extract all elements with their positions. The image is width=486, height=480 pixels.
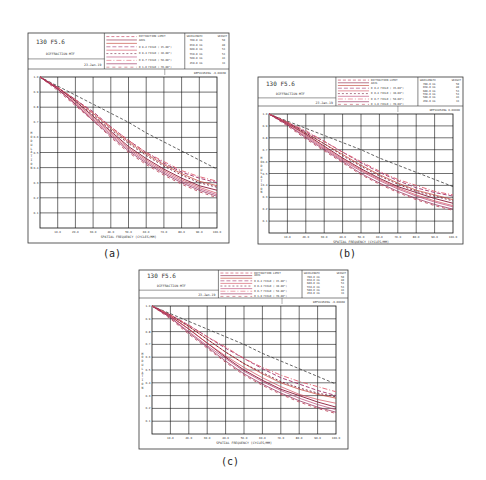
mtf-panel-a: 130 F5.6DIFFRACTION MTF23-Jan-19DIFFRACT… xyxy=(28,33,229,243)
x-tick-label: 60.0 xyxy=(376,235,383,239)
x-tick-label: 20.0 xyxy=(185,436,192,440)
y-tick-label: 0.4 xyxy=(262,183,267,187)
y-tick-label: 0.7 xyxy=(33,120,38,124)
x-tick-label: 60.0 xyxy=(259,436,266,440)
x-tick-label: 80.0 xyxy=(296,436,303,440)
x-tick-label: 70.0 xyxy=(394,235,401,239)
panel-caption: (b) xyxy=(338,248,356,259)
panel-caption: (a) xyxy=(103,248,121,259)
weight-header: WEIGHT xyxy=(218,35,228,38)
weight-value: 80 xyxy=(222,44,226,47)
panel-title: 130 F5.6 xyxy=(266,80,295,87)
x-tick-label: 30.0 xyxy=(90,230,97,234)
panel-date: 23-Jan-19 xyxy=(84,63,101,67)
y-tick-label: 0.2 xyxy=(262,207,267,211)
y-tick-label: 0.8 xyxy=(262,136,267,140)
x-tick-label: 30.0 xyxy=(204,436,211,440)
legend-entry: AXIS xyxy=(371,82,378,85)
y-tick-label: 0.3 xyxy=(262,195,267,199)
legend-entry: R 0.4 FIELD ( 30.00°) xyxy=(371,92,404,95)
y-tick-label: 0.5 xyxy=(33,151,38,155)
panel-date: 23-Jan-19 xyxy=(316,101,333,105)
y-tick-label: 0.6 xyxy=(262,160,267,164)
x-axis-label: SPATIAL FREQUENCY (CYCLES/MM) xyxy=(101,235,157,239)
y-tick-label: 0.8 xyxy=(33,105,38,109)
x-tick-label: 90.0 xyxy=(314,436,321,440)
mtf-panel-b: 130 F5.6DIFFRACTION MTF23-Jan-19DIFFRACT… xyxy=(258,77,463,244)
x-tick-label: 80.0 xyxy=(178,230,185,234)
weight-value: 53 xyxy=(222,53,226,56)
y-tick-label: 1.0 xyxy=(145,304,150,308)
wavelength-value: 450.0 nm xyxy=(307,292,320,295)
y-tick-label: 0.6 xyxy=(33,135,38,139)
figure: 130 F5.6DIFFRACTION MTF23-Jan-19DIFFRACT… xyxy=(0,0,486,480)
y-tick-label: 0.7 xyxy=(262,148,267,152)
y-tick-label: 1.0 xyxy=(262,112,267,116)
x-tick-label: 90.0 xyxy=(196,230,203,234)
x-tick-label: 50.0 xyxy=(241,436,248,440)
weight-header: WEIGHT xyxy=(337,272,347,275)
x-tick-label: 60.0 xyxy=(143,230,150,234)
weight-value: 33 xyxy=(222,62,226,65)
x-axis-label: SPATIAL FREQUENCY (CYCLES/MM) xyxy=(216,441,272,445)
weight-value: 53 xyxy=(222,48,226,51)
x-tick-label: 70.0 xyxy=(277,436,284,440)
weight-value: 33 xyxy=(341,292,345,295)
y-tick-label: 0.8 xyxy=(145,330,150,334)
legend-entry: R 0.7 FIELD ( 50.00°) xyxy=(139,59,172,62)
legend-entry: R 0.2 FIELD ( 15.00°) xyxy=(254,280,287,283)
panel-subtitle: DIFFRACTION MTF xyxy=(276,92,305,96)
y-tick-label: 0.9 xyxy=(33,90,38,94)
defocusing-label: DEFOCUSING -0.00030 xyxy=(194,71,226,75)
y-tick-label: 1.0 xyxy=(33,75,38,79)
legend-entry: R 1.0 FIELD ( 70.00°) xyxy=(139,66,172,69)
mtf-panel-c: 130 F5.6DIFFRACTION MTF23-Jan-19DIFFRACT… xyxy=(139,270,348,449)
wavelength-value: 600.0 nm xyxy=(190,48,203,51)
y-tick-label: 0.1 xyxy=(262,219,267,223)
panel-subtitle: DIFFRACTION MTF xyxy=(46,52,75,56)
wavelength-value: 700.0 nm xyxy=(190,39,203,42)
wavelength-value: 550.0 nm xyxy=(190,53,203,56)
panel-caption: (c) xyxy=(221,456,239,467)
x-tick-label: 80.0 xyxy=(413,235,420,239)
x-tick-label: 20.0 xyxy=(302,235,309,239)
y-tick-label: 0.3 xyxy=(33,181,38,185)
y-axis-label-char: N xyxy=(31,166,33,170)
legend-entry: R 1.0 FIELD ( 70.00°) xyxy=(371,103,404,106)
legend-entry: AXIS xyxy=(254,274,261,277)
weight-value: 50 xyxy=(222,39,226,42)
x-tick-label: 40.0 xyxy=(107,230,114,234)
weight-header: WEIGHT xyxy=(452,79,462,82)
legend-entry: R 0.2 FIELD ( 15.00°) xyxy=(139,46,172,49)
panel-date: 23-Jan-19 xyxy=(198,293,215,297)
y-tick-label: 0.4 xyxy=(145,381,150,385)
y-tick-label: 0.5 xyxy=(145,368,150,372)
legend-entry: R 0.7 FIELD ( 50.00°) xyxy=(254,290,287,293)
x-tick-label: 90.0 xyxy=(431,235,438,239)
y-tick-label: 0.1 xyxy=(33,211,38,215)
x-tick-label: 70.0 xyxy=(161,230,168,234)
x-tick-label: 40.0 xyxy=(222,436,229,440)
panel-title: 130 F5.6 xyxy=(147,272,176,279)
x-tick-label: 100.0 xyxy=(332,436,341,440)
legend-entry: AXIS xyxy=(139,39,146,42)
legend-entry: R 0.2 FIELD ( 15.00°) xyxy=(371,87,404,90)
y-tick-label: 0.2 xyxy=(33,196,38,200)
x-tick-label: 100.0 xyxy=(213,230,222,234)
y-tick-label: 0.9 xyxy=(145,317,150,321)
wavelength-value: 450.0 nm xyxy=(423,100,436,103)
panel-subtitle: DIFFRACTION MTF xyxy=(157,284,186,288)
x-tick-label: 10.0 xyxy=(284,235,291,239)
wavelength-header: WAVELENGTH xyxy=(304,272,320,275)
x-tick-label: 50.0 xyxy=(358,235,365,239)
y-tick-label: 0.5 xyxy=(262,172,267,176)
x-tick-label: 20.0 xyxy=(72,230,79,234)
legend-entry: R 1.0 FIELD ( 70.00°) xyxy=(254,295,287,298)
legend-entry: R 0.4 FIELD ( 30.00°) xyxy=(254,285,287,288)
defocusing-label: DEFOCUSING -0.00060 xyxy=(313,300,345,304)
y-tick-label: 0.9 xyxy=(262,124,267,128)
x-tick-label: 10.0 xyxy=(167,436,174,440)
x-tick-label: 10.0 xyxy=(54,230,61,234)
weight-value: 43 xyxy=(222,57,226,60)
x-tick-label: 40.0 xyxy=(339,235,346,239)
